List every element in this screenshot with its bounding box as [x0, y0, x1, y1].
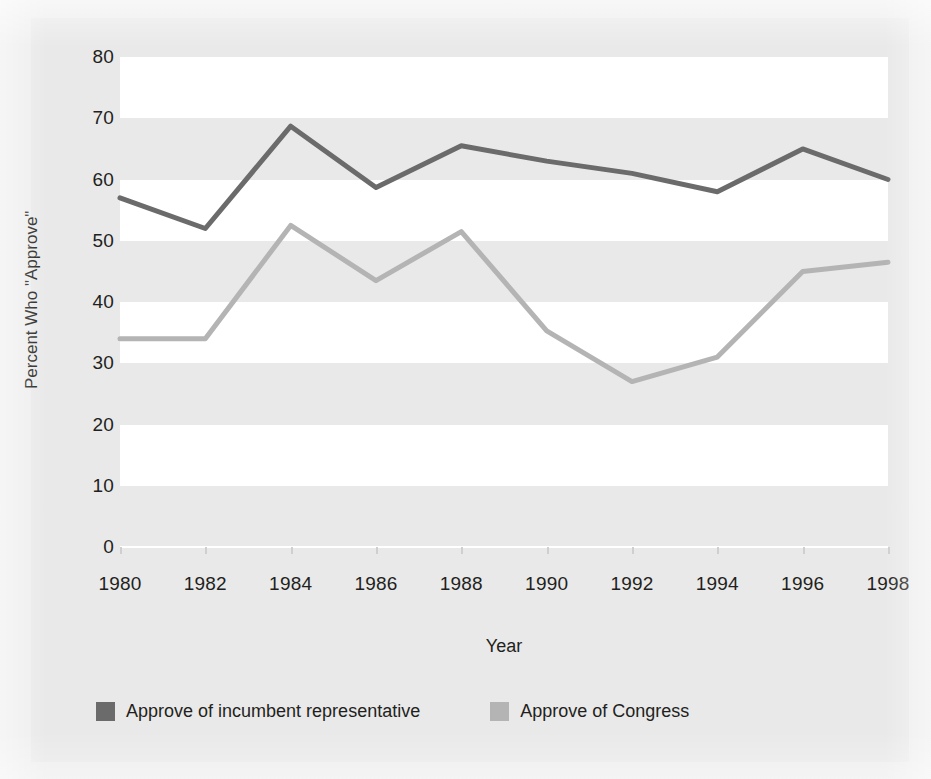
x-tick-label: 1998 [866, 573, 909, 595]
x-tick-mark [291, 547, 293, 554]
x-tick-label: 1992 [610, 573, 653, 595]
x-tick-mark [888, 547, 890, 554]
y-axis-tick-labels: 80706050403020100 [56, 0, 114, 779]
y-tick-label: 20 [70, 414, 114, 436]
x-tick-mark [632, 547, 634, 554]
x-tick-mark [717, 547, 719, 554]
x-tick-label: 1990 [525, 573, 568, 595]
legend-item[interactable]: Approve of incumbent representative [96, 701, 420, 722]
x-tick-label: 1984 [269, 573, 312, 595]
y-axis-title: Percent Who "Approve" [18, 180, 46, 420]
plot-area [120, 57, 888, 547]
chart-figure: 80706050403020100 1980198219841986198819… [0, 0, 931, 779]
x-tick-mark [803, 547, 805, 554]
y-tick-label: 30 [70, 352, 114, 374]
x-axis-tick-labels: 1980198219841986198819901992199419961998 [120, 573, 888, 601]
x-tick-label: 1986 [354, 573, 397, 595]
line-approve-incumbent-representative [120, 126, 888, 228]
y-tick-label: 80 [70, 46, 114, 68]
y-tick-label: 0 [70, 536, 114, 558]
x-tick-mark [376, 547, 378, 554]
legend-item[interactable]: Approve of Congress [490, 701, 689, 722]
x-tick-label: 1982 [184, 573, 227, 595]
x-axis-line [120, 546, 888, 548]
legend-swatch-icon [490, 702, 509, 721]
line-approve-congress [120, 225, 888, 381]
y-tick-label: 70 [70, 107, 114, 129]
x-tick-mark [547, 547, 549, 554]
x-tick-label: 1996 [781, 573, 824, 595]
x-tick-label: 1980 [98, 573, 141, 595]
x-tick-label: 1988 [440, 573, 483, 595]
y-tick-label: 60 [70, 169, 114, 191]
y-tick-label: 40 [70, 291, 114, 313]
x-tick-mark [205, 547, 207, 554]
chart-legend: Approve of incumbent representativeAppro… [96, 701, 689, 722]
x-axis-title: Year [120, 636, 888, 657]
x-tick-mark [120, 547, 122, 554]
y-tick-label: 50 [70, 230, 114, 252]
x-tick-label: 1994 [696, 573, 739, 595]
legend-label: Approve of incumbent representative [126, 701, 420, 722]
x-tick-mark [461, 547, 463, 554]
legend-swatch-icon [96, 702, 115, 721]
series-lines [120, 57, 888, 547]
legend-label: Approve of Congress [520, 701, 689, 722]
y-tick-label: 10 [70, 475, 114, 497]
